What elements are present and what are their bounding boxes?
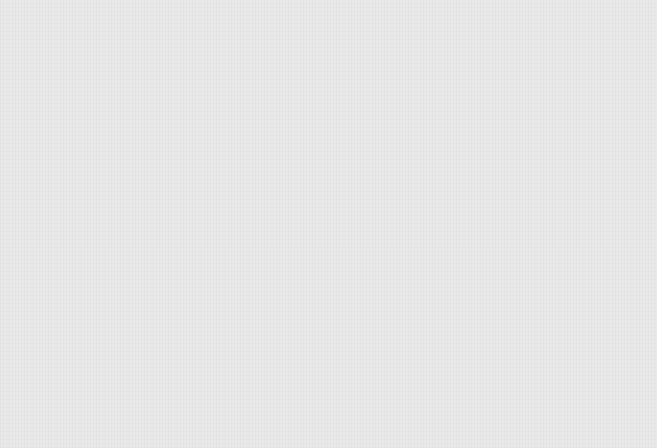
x-axis-title: Adult Mortality Rate per Year	[108, 420, 657, 441]
plot-canvas	[0, 0, 657, 448]
data-point-10	[513, 84, 525, 96]
data-point-4	[363, 188, 375, 200]
data-point-2	[314, 227, 326, 239]
data-point-13	[543, 14, 555, 26]
x-tick-label-4: 1.0	[577, 386, 657, 407]
data-point-3	[317, 192, 329, 204]
data-point-11	[531, 83, 543, 95]
y-tick-label-1: 2	[30, 102, 92, 123]
data-point-8	[386, 242, 398, 254]
data-point-12	[536, 94, 548, 106]
data-point-7	[389, 217, 401, 229]
x-tick-label-2: 0.2	[354, 386, 434, 407]
x-tick-label-3: 0.5	[481, 386, 561, 407]
y-tick-label-5: 0.1	[30, 362, 92, 383]
y-tick-label-3: 0.5	[30, 222, 92, 243]
y-tick-label-2: 1	[30, 162, 92, 183]
scatter-plot-figure: Number of Offspring per Year Adult Morta…	[0, 0, 657, 448]
y-tick-label-0: 5	[30, 22, 92, 43]
x-tick-label-1: 0.1	[258, 386, 338, 407]
data-point-1	[226, 240, 238, 252]
data-point-9	[455, 177, 467, 189]
y-tick-label-4: 0.2	[30, 302, 92, 323]
x-tick-label-0: 0.05	[162, 386, 242, 407]
data-point-5	[383, 168, 395, 180]
data-point-0	[172, 316, 184, 328]
regression-line	[146, 20, 657, 375]
data-point-6	[396, 174, 408, 186]
